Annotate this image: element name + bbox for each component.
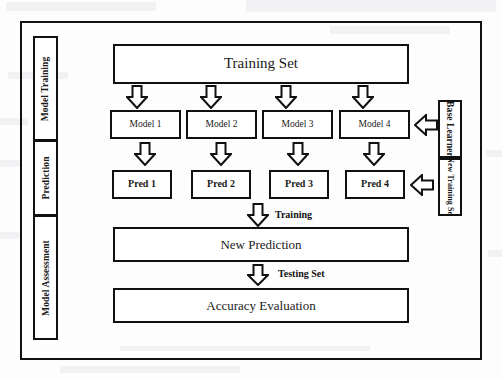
node-accuracy-evaluation: Accuracy Evaluation [113,288,409,323]
edge-label-training: Training [275,209,312,220]
stage-model-training-label: Model Training [41,56,51,121]
input-new-training-set: New Training Set [438,158,462,216]
scan-artifact [246,0,496,12]
node-model-1-label: Model 1 [130,120,162,130]
stage-model-assessment: Model Assessment [33,215,58,340]
scan-artifact [0,232,20,239]
node-new-prediction: New Prediction [113,227,409,262]
node-accuracy-evaluation-label: Accuracy Evaluation [206,299,315,313]
node-model-1: Model 1 [110,110,181,139]
node-pred-1-label: Pred 1 [128,179,156,190]
stage-model-assessment-label: Model Assessment [41,240,51,316]
node-pred-1: Pred 1 [112,170,172,199]
node-model-4-label: Model 4 [359,120,391,130]
scan-artifact [60,366,240,373]
node-pred-4: Pred 4 [345,170,405,199]
node-model-2: Model 2 [186,110,257,139]
node-pred-4-label: Pred 4 [361,179,389,190]
node-training-set-label: Training Set [224,56,298,72]
stage-model-training: Model Training [33,36,58,141]
input-new-training-set-label: New Training Set [446,158,455,216]
node-pred-2: Pred 2 [191,170,251,199]
scan-artifact [486,150,502,157]
node-pred-3: Pred 3 [269,170,329,199]
edge-label-testing-set: Testing Set [278,268,325,279]
scan-artifact [488,250,502,257]
diagram-canvas: Model Training Prediction Model Assessme… [0,0,502,380]
node-model-4: Model 4 [339,110,410,139]
node-model-2-label: Model 2 [206,120,238,130]
stage-prediction-label: Prediction [41,156,51,199]
node-new-prediction-label: New Prediction [220,238,301,252]
scan-artifact [0,160,22,167]
input-base-learner-label: Base Learner [445,101,455,157]
node-pred-2-label: Pred 2 [207,179,235,190]
scan-artifact [6,2,156,11]
input-base-learner: Base Learner [438,100,462,158]
stage-prediction: Prediction [33,140,58,216]
node-pred-3-label: Pred 3 [285,179,313,190]
node-model-3: Model 3 [262,110,333,139]
node-training-set: Training Set [113,44,409,84]
node-model-3-label: Model 3 [282,120,314,130]
